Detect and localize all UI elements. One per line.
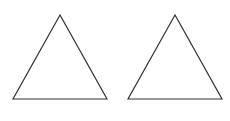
diagram-canvas	[0, 0, 230, 121]
triangles-diagram	[0, 0, 230, 121]
